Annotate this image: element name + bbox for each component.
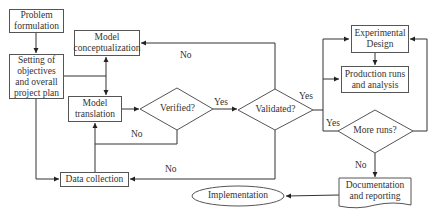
no-label-more-runs: No xyxy=(355,160,367,170)
model-conceptualization-box: Model conceptualization xyxy=(74,30,140,56)
yes-label-verified: Yes xyxy=(214,97,228,107)
production-runs-box: Production runs and analysis xyxy=(341,66,409,93)
yes-label-validated: Yes xyxy=(299,91,313,101)
data-collection-box: Data collection xyxy=(60,172,129,187)
experimental-design-box: Experimental Design xyxy=(351,25,409,53)
validated-label: Validated? xyxy=(248,104,303,114)
documentation-label: Documentation and reporting xyxy=(339,180,411,202)
no-label-data-collection: No xyxy=(165,164,177,174)
no-label-verified: No xyxy=(131,129,143,139)
more-runs-label: More runs? xyxy=(347,125,403,135)
model-translation-box: Model translation xyxy=(68,96,122,122)
no-label-conceptualization: No xyxy=(180,50,192,60)
yes-label-more-runs: Yes xyxy=(326,118,340,128)
setting-objectives-box: Setting of objectives and overall projec… xyxy=(9,54,64,99)
problem-formulation-box: Problem formulation xyxy=(9,9,64,33)
implementation-label: Implementation xyxy=(196,190,280,200)
verified-label: Verified? xyxy=(150,103,205,113)
